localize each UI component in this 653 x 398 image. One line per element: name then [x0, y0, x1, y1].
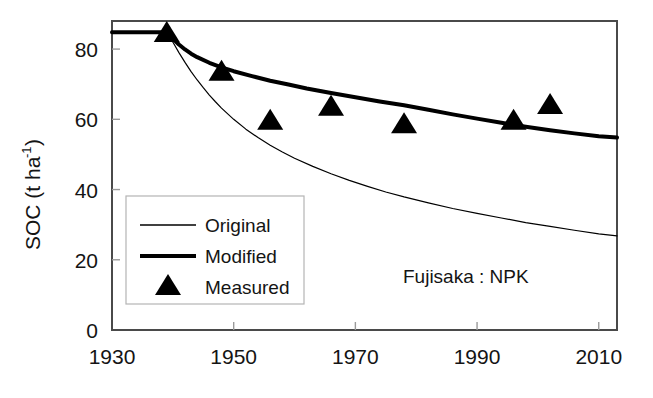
y-axis-title-superscript: -1 [19, 146, 34, 158]
x-tick-label: 2010 [575, 345, 622, 368]
legend-label-original: Original [205, 215, 270, 236]
x-tick-label: 1950 [210, 345, 257, 368]
y-tick-label: 40 [75, 179, 98, 202]
x-tick-label: 1970 [332, 345, 379, 368]
x-tick-label: 1930 [89, 345, 136, 368]
y-axis-title-main: SOC (t ha [21, 156, 44, 250]
y-axis-title-closing-paren: ) [21, 139, 44, 146]
y-tick-label: 60 [75, 108, 98, 131]
legend-label-measured: Measured [205, 277, 290, 298]
y-tick-label: 0 [86, 319, 98, 342]
soc-chart-figure: 020406080 19301950197019902010 SOC (t ha… [0, 0, 653, 398]
x-tick-label: 1990 [454, 345, 501, 368]
y-tick-label: 20 [75, 249, 98, 272]
legend: Original Modified Measured [126, 196, 304, 304]
chart-annotation: Fujisaka : NPK [403, 266, 529, 287]
y-tick-label: 80 [75, 38, 98, 61]
legend-label-modified: Modified [205, 246, 277, 267]
